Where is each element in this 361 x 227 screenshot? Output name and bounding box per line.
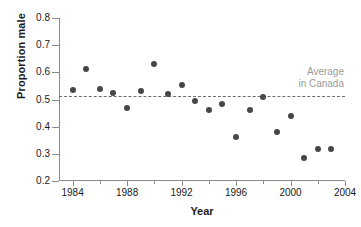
average-annotation: Average in Canada: [298, 66, 344, 89]
data-point: [179, 82, 185, 88]
y-tick: [52, 18, 59, 19]
data-point: [97, 86, 103, 92]
average-annotation-line1: Average: [298, 66, 344, 78]
data-point: [165, 91, 171, 97]
x-tick-label: 2004: [325, 187, 361, 198]
data-point: [274, 129, 280, 135]
y-tick: [52, 45, 59, 46]
y-tick-label: 0.5: [20, 94, 50, 105]
y-tick: [52, 181, 59, 182]
y-tick-label: 0.2: [20, 175, 50, 186]
x-tick-major: [345, 181, 346, 186]
y-tick-label: 0.4: [20, 121, 50, 132]
y-tick: [52, 154, 59, 155]
x-tick-major: [291, 181, 292, 186]
x-tick-label: 2000: [271, 187, 311, 198]
x-tick-label: 1996: [216, 187, 256, 198]
x-tick-minor: [154, 181, 155, 184]
data-point: [206, 107, 212, 113]
y-tick-label: 0.7: [20, 39, 50, 50]
data-point: [192, 98, 198, 104]
x-tick-label: 1984: [53, 187, 93, 198]
x-tick-minor: [100, 181, 101, 184]
data-point: [70, 87, 76, 93]
data-point: [315, 146, 321, 152]
x-tick-minor: [263, 181, 264, 184]
data-point: [288, 113, 294, 119]
x-axis-title: Year: [59, 205, 345, 217]
x-tick-major: [73, 181, 74, 186]
x-tick-major: [182, 181, 183, 186]
data-point: [138, 88, 144, 94]
y-tick-label: 0.8: [20, 12, 50, 23]
x-tick-label: 1992: [162, 187, 202, 198]
x-tick-minor: [318, 181, 319, 184]
data-point: [247, 107, 253, 113]
y-tick: [52, 100, 59, 101]
average-annotation-line2: in Canada: [298, 78, 344, 90]
x-tick-label: 1988: [107, 187, 147, 198]
x-tick-major: [236, 181, 237, 186]
average-line: [59, 96, 345, 97]
x-tick-minor: [209, 181, 210, 184]
y-tick: [52, 127, 59, 128]
y-tick-label: 0.3: [20, 148, 50, 159]
y-tick-label: 0.6: [20, 66, 50, 77]
x-tick-major: [127, 181, 128, 186]
y-tick: [52, 72, 59, 73]
